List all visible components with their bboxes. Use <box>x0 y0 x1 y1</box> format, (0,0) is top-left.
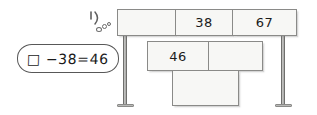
thought-trail-dot-1 <box>96 27 102 32</box>
bubble-equation-text: □ −38=46 <box>27 51 109 67</box>
bar-cell-top-1[interactable] <box>117 9 176 36</box>
bar-cell-mid-1[interactable]: 46 <box>147 41 209 71</box>
bar-cell-bottom[interactable] <box>172 70 239 106</box>
thought-trail-dot-3 <box>107 22 111 26</box>
bar-cell-mid-2[interactable] <box>208 41 263 71</box>
thought-bubble[interactable]: □ −38=46 <box>17 44 119 73</box>
scale-leg-right <box>281 35 285 106</box>
scale-leg-left <box>123 35 127 106</box>
bar-cell-top-3[interactable]: 67 <box>232 9 297 36</box>
scale-foot-right <box>275 104 292 107</box>
bar-cell-top-2[interactable]: 38 <box>175 9 233 36</box>
worksheet-canvas: 38 67 46 □ −38=46 <box>0 0 317 115</box>
scale-foot-left <box>117 104 134 107</box>
thought-trail-dot-2 <box>102 24 107 29</box>
